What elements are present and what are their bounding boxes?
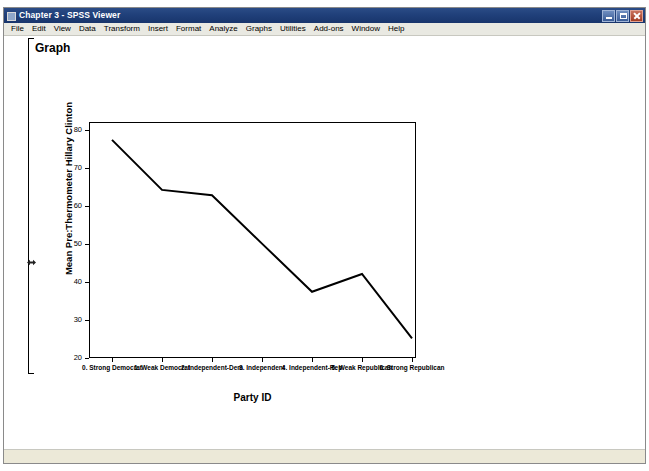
- menu-item-view[interactable]: View: [50, 23, 75, 35]
- x-axis-title: Party ID: [89, 392, 416, 403]
- output-document-area[interactable]: Graph Mean Pre:Thermometer Hillary Clint…: [4, 36, 645, 449]
- window-title: Chapter 3 - SPSS Viewer: [19, 8, 602, 23]
- y-tick-30: 30: [40, 320, 89, 321]
- x-tick-6: [412, 358, 413, 362]
- close-button[interactable]: [630, 10, 643, 22]
- menu-item-format[interactable]: Format: [172, 23, 205, 35]
- x-tick-1: [162, 358, 163, 362]
- y-tick-70: 70: [40, 168, 89, 169]
- menu-item-help[interactable]: Help: [384, 23, 408, 35]
- menu-item-graphs[interactable]: Graphs: [242, 23, 276, 35]
- spss-viewer-icon: [7, 11, 16, 20]
- spss-viewer-window: Chapter 3 - SPSS Viewer File Edit View D…: [3, 7, 646, 464]
- line-chart[interactable]: Mean Pre:Thermometer Hillary Clinton 20 …: [40, 68, 420, 408]
- menu-item-add-ons[interactable]: Add-ons: [310, 23, 348, 35]
- menu-item-window[interactable]: Window: [348, 23, 384, 35]
- x-tick-3: [262, 358, 263, 362]
- title-bar[interactable]: Chapter 3 - SPSS Viewer: [4, 8, 645, 23]
- menu-item-analyze[interactable]: Analyze: [205, 23, 241, 35]
- status-bar: [4, 449, 645, 463]
- window-controls: [602, 10, 644, 22]
- menu-item-insert[interactable]: Insert: [144, 23, 172, 35]
- selection-arrow-icon: [26, 254, 37, 265]
- menu-bar: File Edit View Data Transform Insert For…: [4, 23, 645, 36]
- menu-item-utilities[interactable]: Utilities: [276, 23, 310, 35]
- x-tick-0: [112, 358, 113, 362]
- y-tick-40: 40: [40, 282, 89, 283]
- y-tick-80: 80: [40, 130, 89, 131]
- output-heading-graph: Graph: [35, 41, 70, 55]
- maximize-button[interactable]: [616, 10, 629, 22]
- y-tick-60: 60: [40, 206, 89, 207]
- y-tick-20: 20: [40, 358, 89, 359]
- data-series-line: [89, 122, 416, 358]
- y-axis-title: Mean Pre:Thermometer Hillary Clinton: [63, 79, 74, 299]
- x-label-strong-republican: 6. Strong Republican: [379, 364, 445, 372]
- menu-item-data[interactable]: Data: [75, 23, 100, 35]
- x-tick-2: [212, 358, 213, 362]
- menu-item-edit[interactable]: Edit: [28, 23, 50, 35]
- y-tick-50: 50: [40, 244, 89, 245]
- x-tick-4: [312, 358, 313, 362]
- menu-item-file[interactable]: File: [7, 23, 28, 35]
- menu-item-transform[interactable]: Transform: [100, 23, 144, 35]
- output-item-bracket: [28, 38, 34, 374]
- x-tick-5: [362, 358, 363, 362]
- minimize-button[interactable]: [602, 10, 615, 22]
